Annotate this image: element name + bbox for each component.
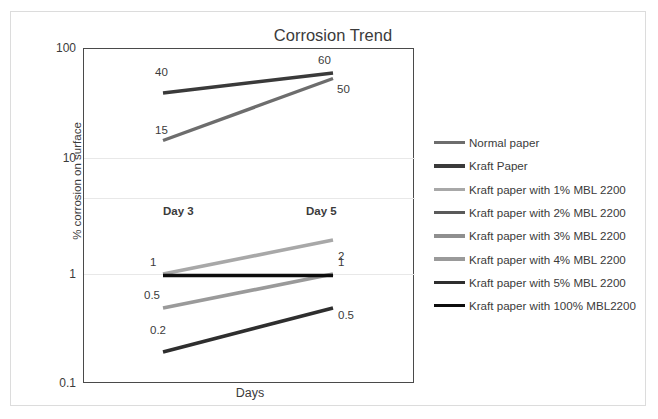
legend-swatch-icon	[434, 211, 465, 214]
legend-label: Kraft paper with 1% MBL 2200	[469, 183, 626, 196]
legend-label: Kraft paper with 100% MBL2200	[469, 299, 636, 312]
data-label-half-day5: 0.5	[338, 309, 354, 321]
data-label-half-day3: 0.5	[144, 289, 160, 301]
legend-label: Kraft paper with 3% MBL 2200	[469, 229, 626, 242]
legend-swatch-icon	[434, 164, 465, 167]
y-tick-10: 10	[30, 151, 76, 165]
gridline-1	[84, 274, 415, 275]
legend-item-kraft-2pct[interactable]: Kraft paper with 2% MBL 2200	[434, 201, 640, 224]
y-axis-title: % corrosion on surface	[71, 86, 83, 276]
data-label-normal-day3: 15	[155, 124, 168, 136]
legend-item-kraft-paper[interactable]: Kraft Paper	[434, 154, 640, 177]
legend-item-kraft-5pct[interactable]: Kraft paper with 5% MBL 2200	[434, 271, 640, 294]
legend-label: Kraft paper with 2% MBL 2200	[469, 206, 626, 219]
plot-area	[83, 48, 414, 383]
legend-swatch-icon	[434, 141, 465, 144]
y-tick-0.1: 0.1	[30, 376, 76, 390]
legend-swatch-icon	[434, 188, 465, 191]
category-label-day-5: Day 5	[306, 205, 337, 217]
legend-item-kraft-1pct[interactable]: Kraft paper with 1% MBL 2200	[434, 178, 640, 201]
legend-label: Kraft paper with 5% MBL 2200	[469, 276, 626, 289]
gridline-10	[84, 158, 415, 159]
chart-legend: Normal paper Kraft Paper Kraft paper wit…	[434, 131, 640, 317]
legend-item-kraft-3pct[interactable]: Kraft paper with 3% MBL 2200	[434, 224, 640, 247]
data-label-normal-day5: 50	[337, 83, 350, 95]
gridline-5	[84, 198, 415, 199]
y-tick-1: 1	[30, 267, 76, 281]
data-label-point2-day3: 0.2	[150, 324, 166, 336]
legend-swatch-icon	[434, 281, 465, 284]
data-label-one-day5: 1	[338, 256, 344, 268]
legend-item-kraft-100pct[interactable]: Kraft paper with 100% MBL2200	[434, 294, 640, 317]
category-label-day-3: Day 3	[163, 205, 194, 217]
data-label-kraft-day5: 60	[318, 54, 331, 66]
chart-title: Corrosion Trend	[243, 26, 423, 45]
data-label-kraft-day3: 40	[155, 66, 168, 78]
chart-figure: Corrosion Trend % corrosion on surface 1…	[0, 0, 658, 419]
legend-swatch-icon	[434, 304, 465, 307]
legend-label: Normal paper	[469, 136, 539, 149]
legend-label: Kraft paper with 4% MBL 2200	[469, 253, 626, 266]
legend-swatch-icon	[434, 234, 465, 237]
data-label-one-day3: 1	[150, 256, 156, 268]
legend-swatch-icon	[434, 257, 465, 260]
y-tick-100: 100	[30, 41, 76, 55]
x-axis-title: Days	[190, 386, 310, 400]
legend-item-kraft-4pct[interactable]: Kraft paper with 4% MBL 2200	[434, 247, 640, 270]
legend-label: Kraft Paper	[469, 159, 528, 172]
legend-item-normal-paper[interactable]: Normal paper	[434, 131, 640, 154]
